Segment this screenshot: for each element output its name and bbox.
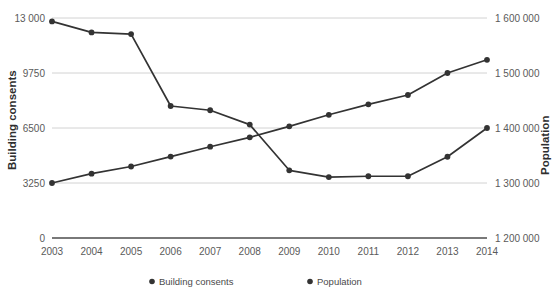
data-point-marker	[326, 174, 332, 180]
data-point-marker	[128, 164, 134, 170]
data-point-marker	[247, 134, 253, 140]
data-point-marker	[128, 31, 134, 37]
x-axis-tick-labels: 2003200420052006200720082009201020112012…	[41, 246, 499, 257]
data-point-marker	[365, 101, 371, 107]
legend-marker	[149, 279, 155, 285]
series-layer	[49, 18, 490, 185]
x-tick-label: 2014	[476, 246, 499, 257]
chart-legend: Building consentsPopulation	[149, 276, 362, 287]
data-point-marker	[484, 57, 490, 63]
x-tick-label: 2006	[160, 246, 183, 257]
x-tick-label: 2010	[318, 246, 341, 257]
left-axis-title: Building consents	[6, 70, 18, 170]
data-point-marker	[286, 167, 292, 173]
right-tick-label: 1 500 000	[495, 68, 540, 79]
legend-label: Building consents	[159, 276, 234, 287]
legend-label: Population	[317, 276, 362, 287]
left-tick-label: 0	[39, 233, 45, 244]
x-tick-label: 2011	[358, 246, 380, 257]
dual-axis-line-chart: 032506500975013 000 1 200 0001 300 0001 …	[0, 0, 555, 295]
left-tick-label: 9750	[23, 68, 46, 79]
data-point-marker	[168, 103, 174, 109]
legend-marker	[307, 279, 313, 285]
data-point-marker	[89, 171, 95, 177]
data-point-marker	[445, 154, 451, 160]
x-tick-label: 2008	[239, 246, 262, 257]
data-point-marker	[168, 154, 174, 160]
data-point-marker	[207, 144, 213, 150]
right-tick-label: 1 200 000	[495, 233, 540, 244]
data-point-marker	[89, 29, 95, 35]
x-tick-label: 2012	[397, 246, 420, 257]
data-point-marker	[365, 173, 371, 179]
x-tick-label: 2009	[278, 246, 301, 257]
x-tick-label: 2013	[436, 246, 459, 257]
left-tick-label: 3250	[23, 178, 46, 189]
right-axis-tick-labels: 1 200 0001 300 0001 400 0001 500 0001 60…	[495, 13, 540, 244]
data-point-marker	[405, 173, 411, 179]
x-tick-label: 2004	[80, 246, 103, 257]
right-tick-label: 1 300 000	[495, 178, 540, 189]
data-point-marker	[286, 123, 292, 129]
right-tick-label: 1 400 000	[495, 123, 540, 134]
left-tick-label: 13 000	[14, 13, 45, 24]
data-point-marker	[326, 112, 332, 118]
series-line	[52, 21, 487, 177]
x-tick-label: 2005	[120, 246, 143, 257]
x-tick-label: 2003	[41, 246, 64, 257]
data-point-marker	[445, 70, 451, 76]
left-tick-label: 6500	[23, 123, 46, 134]
x-tick-label: 2007	[199, 246, 222, 257]
series-line	[52, 60, 487, 183]
data-point-marker	[405, 92, 411, 98]
chart-container: 032506500975013 000 1 200 0001 300 0001 …	[0, 0, 555, 295]
data-point-marker	[49, 180, 55, 186]
data-point-marker	[247, 122, 253, 128]
right-tick-label: 1 600 000	[495, 13, 540, 24]
right-axis-title: Population	[539, 116, 551, 175]
data-point-marker	[49, 18, 55, 24]
left-axis-tick-labels: 032506500975013 000	[14, 13, 45, 244]
gridlines	[52, 18, 487, 238]
data-point-marker	[484, 125, 490, 131]
data-point-marker	[207, 107, 213, 113]
